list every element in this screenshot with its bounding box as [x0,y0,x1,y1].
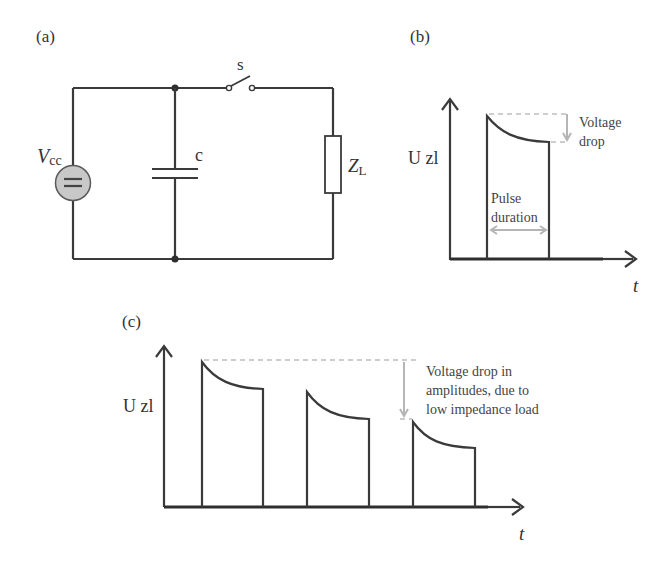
panel-label-a: (a) [36,27,55,46]
y-axis-label: U zl [123,396,154,416]
circuit-diagram: Vcc s c ZL [37,55,367,263]
panel-label-b: (b) [410,27,430,46]
vcc-label: Vcc [37,145,62,168]
voltage-drop-label-2: drop [579,134,605,149]
switch-icon [226,76,254,91]
annotation-line-2: amplitudes, due to [426,383,529,398]
pulse-2 [307,392,369,507]
pulse-3 [413,422,475,507]
annotation-line-1: Voltage drop in [426,364,512,379]
capacitor-icon [152,169,198,178]
load-label: ZL [348,155,367,178]
pulse-1 [202,362,263,507]
capacitor-label: c [195,145,203,165]
pulse-train-chart: Voltage drop in amplitudes, due to low i… [123,346,539,544]
y-axis-label: U zl [408,148,439,168]
switch-label: s [237,55,244,74]
pulse-waveform [487,116,549,259]
annotation-line-3: low impedance load [426,402,539,417]
figure-canvas: (a) Vcc s c ZL [0,0,670,564]
junction-node-bottom [172,256,179,263]
pulse-duration-label-2: duration [491,210,538,225]
pulse-duration-label-1: Pulse [491,191,521,206]
x-axis-label: t [633,275,639,296]
x-axis-label: t [519,523,525,544]
panel-label-c: (c) [122,312,141,331]
voltage-source-icon [56,166,91,201]
single-pulse-chart: Voltage drop Pulse duration U zl t [408,99,639,296]
load-impedance-icon [325,136,341,193]
voltage-drop-label-1: Voltage [579,115,622,130]
